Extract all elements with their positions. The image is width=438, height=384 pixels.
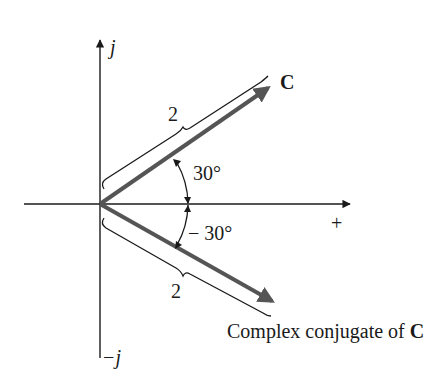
vector-conjugate-magnitude-label: 2 <box>171 281 181 301</box>
angle-arc-30-arrow-top <box>173 159 181 167</box>
phasor-diagram: j −j + C 2 30° 2 − 30° Complex conjugate… <box>0 0 438 384</box>
angle-arc-30-arrow-bottom <box>184 197 191 204</box>
conjugate-caption: Complex conjugate of C <box>227 321 424 341</box>
angle-arc-minus-30-arrow-top <box>184 205 191 212</box>
vector-c <box>100 88 268 204</box>
conjugate-caption-prefix: Complex conjugate of <box>227 320 410 342</box>
imaginary-positive-label: j <box>110 37 116 57</box>
vector-c-label: C <box>280 72 294 92</box>
magnitude-brace-conjugate <box>102 218 271 316</box>
magnitude-brace-c <box>102 76 268 189</box>
imaginary-negative-label: −j <box>102 347 121 367</box>
real-positive-label: + <box>331 213 342 233</box>
vector-c-magnitude-label: 2 <box>168 104 178 124</box>
conjugate-caption-symbol: C <box>410 320 424 342</box>
vector-conjugate-angle-label: − 30° <box>188 223 232 243</box>
vector-c-angle-label: 30° <box>193 163 221 183</box>
